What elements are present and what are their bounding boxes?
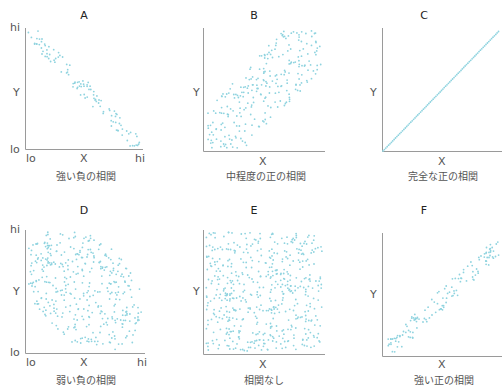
x-tick-hi: hi: [137, 356, 147, 369]
y-axis-label: Y: [13, 86, 20, 99]
scatter-plot: [25, 230, 145, 354]
panel-title: C: [340, 9, 503, 22]
panel-caption: 強い正の相関: [414, 372, 474, 387]
panel-f: F Y X 強い正の相関: [340, 195, 503, 390]
x-tick-lo: lo: [26, 152, 36, 165]
y-tick-hi: hi: [10, 21, 20, 34]
x-axis-label: X: [438, 155, 446, 168]
panel-caption: 中程度の正の相関: [226, 168, 306, 183]
scatter-plot: [25, 28, 143, 150]
y-axis-label: Y: [193, 285, 200, 298]
y-tick-lo: lo: [10, 143, 20, 156]
panel-caption: 完全な正の相関: [408, 168, 478, 183]
scatter-plot: [203, 230, 325, 355]
x-axis-label: X: [80, 356, 88, 369]
panel-caption: 強い負の相関: [56, 168, 116, 183]
x-axis-label: X: [259, 358, 267, 371]
panel-a: A hi Y lo lo X hi 強い負の相関: [0, 0, 168, 195]
panel-b: B Y X 中程度の正の相関: [170, 0, 338, 195]
y-axis-label: Y: [193, 86, 200, 99]
x-tick-lo: lo: [26, 356, 36, 369]
panel-d: D hi Y lo lo X hi 弱い負の相関: [0, 195, 168, 390]
panel-title: F: [340, 204, 503, 217]
panel-caption: 相関なし: [244, 372, 284, 387]
x-axis-label: X: [80, 152, 88, 165]
panel-e: E Y X 相関なし: [170, 195, 338, 390]
panel-title: D: [0, 204, 168, 217]
y-tick-lo: lo: [10, 346, 20, 359]
x-axis-label: X: [438, 358, 446, 371]
panel-title: A: [0, 9, 168, 22]
y-tick-hi: hi: [10, 223, 20, 236]
y-axis-label: Y: [370, 86, 377, 99]
y-axis-label: Y: [13, 285, 20, 298]
y-axis-label: Y: [370, 288, 377, 301]
line-plot: [382, 28, 502, 152]
panel-title: E: [170, 204, 338, 217]
scatter-plot: [382, 233, 502, 357]
x-tick-hi: hi: [135, 152, 145, 165]
panel-title: B: [170, 9, 338, 22]
scatter-plot: [203, 28, 325, 152]
panel-caption: 弱い負の相関: [56, 372, 116, 387]
panel-c: C Y X 完全な正の相関: [340, 0, 503, 195]
x-axis-label: X: [259, 155, 267, 168]
